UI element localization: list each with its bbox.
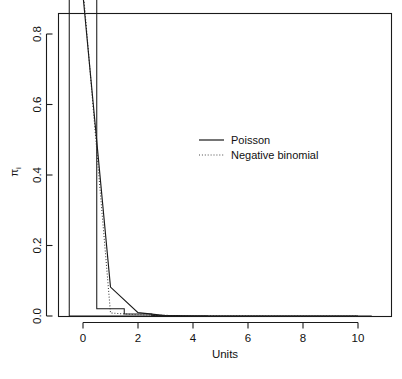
chart-container: 0246810 0.00.20.40.60.8 Units πi Poisson…: [0, 0, 402, 379]
x-axis-tick-labels: 0246810: [80, 332, 365, 344]
legend-label-poisson: Poisson: [231, 134, 270, 146]
x-tick-label-8: 8: [300, 332, 306, 344]
y-tick-label-0.0: 0.0: [31, 308, 43, 324]
y-tick-label-0.6: 0.6: [31, 97, 43, 113]
histogram-outline: [69, 0, 372, 316]
x-tick-label-4: 4: [190, 332, 197, 344]
y-tick-label-0.8: 0.8: [31, 26, 43, 42]
y-axis-title-text: πi: [8, 167, 23, 177]
distribution-comparison-chart: 0246810 0.00.20.40.60.8 Units πi Poisson…: [0, 0, 402, 379]
y-axis-ticks: [47, 34, 53, 316]
x-axis-title: Units: [212, 348, 238, 360]
y-tick-label-0.4: 0.4: [31, 166, 43, 183]
x-tick-label-6: 6: [245, 332, 251, 344]
x-tick-label-2: 2: [135, 332, 141, 344]
x-axis-ticks: [83, 323, 358, 329]
y-tick-label-0.2: 0.2: [31, 238, 43, 254]
legend: Poisson Negative binomial: [199, 134, 318, 161]
legend-label-negative-binomial: Negative binomial: [231, 149, 318, 161]
x-tick-label-10: 10: [352, 332, 365, 344]
y-axis-title: πi: [8, 167, 23, 177]
y-axis-tick-labels: 0.00.20.40.60.8: [31, 26, 43, 324]
x-axis-title-text: Units: [212, 348, 238, 360]
x-tick-label-0: 0: [80, 332, 86, 344]
